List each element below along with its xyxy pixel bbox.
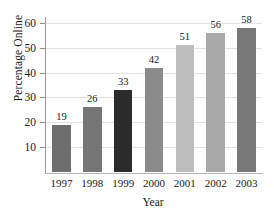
x-axis-line bbox=[45, 173, 263, 174]
bar bbox=[52, 125, 71, 172]
bar bbox=[206, 33, 225, 172]
plot-area: 19263342515658 bbox=[46, 18, 262, 172]
bar-chart: Percentage Online 19263342515658 1020304… bbox=[0, 0, 274, 214]
y-tick-mark bbox=[40, 48, 45, 49]
bar bbox=[237, 28, 256, 172]
bar-value-label: 19 bbox=[41, 111, 81, 122]
y-tick-mark bbox=[40, 122, 45, 123]
y-tick-label: 60 bbox=[6, 17, 36, 29]
y-tick-mark bbox=[40, 147, 45, 148]
bar-value-label: 42 bbox=[134, 54, 174, 65]
y-tick-label: 40 bbox=[6, 67, 36, 79]
bar-value-label: 51 bbox=[165, 31, 205, 42]
x-axis-title: Year bbox=[40, 196, 266, 208]
y-tick-label: 50 bbox=[6, 42, 36, 54]
y-tick-label: 30 bbox=[6, 91, 36, 103]
y-tick-label: 20 bbox=[6, 116, 36, 128]
bar bbox=[176, 45, 195, 172]
bar bbox=[83, 107, 102, 172]
gridline bbox=[46, 48, 262, 49]
y-tick-mark bbox=[40, 73, 45, 74]
bar-value-label: 26 bbox=[72, 93, 112, 104]
bar-value-label: 33 bbox=[103, 76, 143, 87]
bar-value-label: 58 bbox=[227, 14, 267, 25]
x-tick-label: 2003 bbox=[225, 177, 269, 189]
y-tick-mark bbox=[40, 97, 45, 98]
y-tick-label: 10 bbox=[6, 141, 36, 153]
bar bbox=[114, 90, 133, 172]
bar bbox=[145, 68, 164, 172]
y-tick-mark bbox=[40, 23, 45, 24]
